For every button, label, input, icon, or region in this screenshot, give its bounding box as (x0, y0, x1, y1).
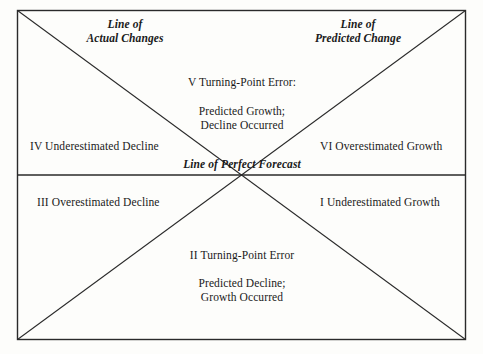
label-turning-point-error-v-body: Predicted Growth; Decline Occurred (199, 105, 285, 132)
label-line-of-predicted-change: Line of Predicted Change (315, 18, 401, 45)
label-quadrant-iv-underestimated-decline: IV Underestimated Decline (30, 140, 159, 154)
label-turning-point-error-ii-title: II Turning-Point Error (190, 249, 294, 263)
label-turning-point-error-v-title: V Turning-Point Error: (188, 76, 296, 90)
label-quadrant-i-underestimated-growth: I Underestimated Growth (320, 196, 440, 210)
forecast-quadrant-diagram: Line of Actual Changes Line of Predicted… (0, 0, 483, 354)
label-line-of-perfect-forecast: Line of Perfect Forecast (183, 158, 301, 172)
label-line-of-actual-changes: Line of Actual Changes (86, 18, 163, 45)
label-quadrant-vi-overestimated-growth: VI Overestimated Growth (320, 140, 442, 154)
label-turning-point-error-ii-body: Predicted Decline; Growth Occurred (198, 277, 285, 304)
label-quadrant-iii-overestimated-decline: III Overestimated Decline (37, 196, 160, 210)
